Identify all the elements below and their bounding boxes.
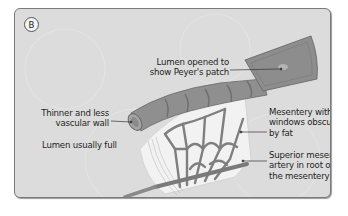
label-thinner-wall: Thinner and less vascular wall [25,108,109,129]
label-superior-mesenteric-artery: Superior mesenteric artery in root of th… [269,150,331,181]
artery-root-stub [125,187,155,197]
label-lumen-opened: Lumen opened to show Peyer's patch [133,57,229,78]
label-lumen-full: Lumen usually full [42,140,117,150]
diagram-panel: B [14,8,331,198]
label-mesentery-windows: Mesentery with windows obscured by fat [269,107,331,138]
